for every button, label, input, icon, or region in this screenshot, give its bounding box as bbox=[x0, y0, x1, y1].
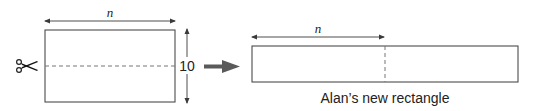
original-width-label: n bbox=[107, 5, 114, 20]
diagram-canvas: n 10 n A bbox=[0, 0, 536, 111]
original-rectangle-group: n 10 bbox=[17, 5, 196, 104]
new-rectangle-caption: Alan’s new rectangle bbox=[321, 90, 450, 106]
scissors-icon bbox=[17, 60, 38, 73]
original-height-label: 10 bbox=[179, 58, 195, 74]
new-rectangle-group: n Alan’s new rectangle bbox=[251, 21, 518, 106]
new-width-label: n bbox=[315, 21, 322, 36]
right-arrow-icon bbox=[204, 60, 240, 73]
